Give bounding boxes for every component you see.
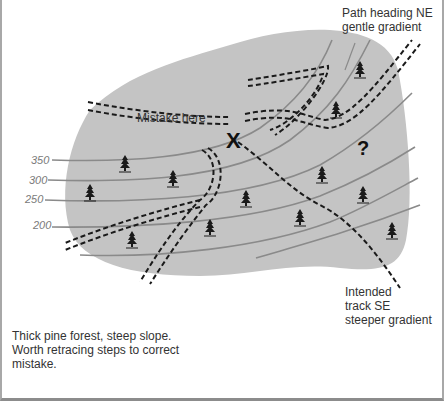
contour-label-250: 250	[25, 193, 43, 205]
mistake-x-marker: X	[226, 128, 241, 154]
contour-label-300: 300	[29, 174, 47, 186]
label-path-ne: Path heading NE gentle gradient	[342, 6, 433, 34]
contour-label-350: 350	[31, 154, 49, 166]
question-mark-icon: ?	[357, 137, 369, 160]
note-text: Thick pine forest, steep slope. Worth re…	[12, 329, 179, 371]
label-intended-track: Intended track SE steeper gradient	[345, 285, 432, 327]
contour-label-200: 200	[33, 219, 51, 231]
label-mistake: Mistake here	[137, 111, 206, 125]
